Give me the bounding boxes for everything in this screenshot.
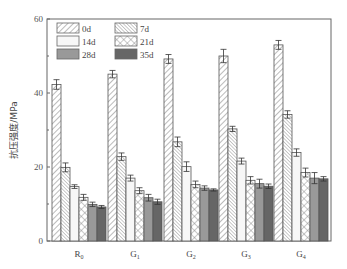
legend-swatch-35d xyxy=(115,49,137,59)
bar-group-G1 xyxy=(108,70,162,241)
legend-label: 28d xyxy=(82,50,96,60)
bar-group-G3 xyxy=(219,49,273,241)
legend-swatch-21d xyxy=(115,36,137,46)
legend: 0d7d14d21d28d35d xyxy=(57,23,154,60)
bar-G4-14d xyxy=(292,153,301,241)
legend-swatch-0d xyxy=(57,23,79,33)
bar-G1-0d xyxy=(108,74,117,241)
x-tick-label: G4 xyxy=(296,249,306,260)
bar-G3-28d xyxy=(255,184,264,241)
legend-swatch-7d xyxy=(115,23,137,33)
bar-R0-35d xyxy=(97,207,106,241)
bar-G4-28d xyxy=(310,178,319,241)
bar-R0-14d xyxy=(70,187,79,241)
legend-swatch-14d xyxy=(57,36,79,46)
bar-G2-0d xyxy=(164,59,173,241)
bar-R0-7d xyxy=(61,167,70,241)
bar-G3-0d xyxy=(219,56,228,241)
legend-label: 7d xyxy=(140,24,150,34)
y-axis-title: 抗压强度/MPa xyxy=(8,101,19,158)
y-tick-label: 0 xyxy=(39,236,44,246)
bar-group-R0 xyxy=(52,80,106,241)
bar-G2-7d xyxy=(173,142,182,241)
legend-label: 21d xyxy=(140,37,154,47)
legend-swatch-28d xyxy=(57,49,79,59)
bar-G4-0d xyxy=(274,45,283,241)
bar-G4-7d xyxy=(283,114,292,241)
bar-G2-35d xyxy=(209,190,218,241)
bar-G1-28d xyxy=(144,198,153,241)
legend-label: 35d xyxy=(140,50,154,60)
legend-label: 14d xyxy=(82,37,96,47)
bar-G2-14d xyxy=(182,167,191,241)
bar-G3-35d xyxy=(264,186,273,241)
x-tick-label: G1 xyxy=(130,249,140,260)
y-tick-label: 20 xyxy=(34,162,44,172)
y-tick-label: 60 xyxy=(34,14,44,24)
y-tick-label: 40 xyxy=(34,88,44,98)
bar-G2-28d xyxy=(200,188,209,241)
compressive-strength-bar-chart: 0204060 0d7d14d21d28d35d R0G1G2G3G4抗压强度/… xyxy=(0,0,347,269)
bar-G1-21d xyxy=(135,191,144,241)
bar-group-G4 xyxy=(274,40,328,241)
x-tick-label: G2 xyxy=(186,249,196,260)
legend-label: 0d xyxy=(82,24,92,34)
x-tick-label: G3 xyxy=(241,249,251,260)
bar-G3-21d xyxy=(246,180,255,241)
bar-group-G2 xyxy=(164,55,218,241)
bar-G1-35d xyxy=(153,202,162,241)
bar-R0-21d xyxy=(79,197,88,241)
bar-G3-14d xyxy=(237,161,246,241)
bar-G2-21d xyxy=(191,184,200,241)
x-tick-label: R0 xyxy=(74,249,83,260)
bar-G1-7d xyxy=(117,157,126,241)
bar-G4-35d xyxy=(319,179,328,241)
bar-R0-28d xyxy=(88,204,97,241)
bar-G1-14d xyxy=(126,178,135,241)
bar-groups xyxy=(52,40,328,241)
bar-G3-7d xyxy=(228,129,237,241)
bar-G4-21d xyxy=(301,173,310,241)
bar-R0-0d xyxy=(52,84,61,241)
